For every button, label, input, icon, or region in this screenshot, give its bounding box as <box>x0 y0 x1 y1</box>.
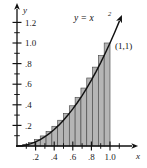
x-axis-tick-label: 1.0 <box>104 152 116 162</box>
riemann-rectangle <box>93 67 99 146</box>
x-axis-tick-label: .8 <box>88 152 95 162</box>
y-axis-tick-label: .6 <box>25 79 32 89</box>
point-label-one-one: (1,1) <box>115 41 132 51</box>
x-axis-tick-label: .6 <box>69 152 76 162</box>
y-axis-tick-labels-group: .2.4.6.81.01.2 <box>25 18 37 131</box>
curve-equation-exponent: 2 <box>108 10 112 17</box>
riemann-rectangle <box>98 55 104 146</box>
riemann-rectangle <box>104 43 110 146</box>
x-axis-tick-labels-group: .2.4.6.81.0 <box>32 152 116 162</box>
riemann-rectangle <box>87 78 93 146</box>
y-axis-tick-label: .8 <box>25 59 32 69</box>
x-axis-tick-label: .4 <box>51 152 58 162</box>
curve-equation-label: y = x 2 <box>73 10 112 23</box>
y-axis-tick-label: 1.2 <box>25 18 36 28</box>
x-axis-tick-label: .2 <box>32 152 39 162</box>
riemann-sum-figure: .2.4.6.81.01.2 .2.4.6.81.0 y x y = x 2 (… <box>0 0 147 168</box>
curve-equation-text: y = x <box>73 13 94 23</box>
y-axis-tick-label: .4 <box>25 100 32 110</box>
x-axis-label: x <box>135 151 140 161</box>
y-axis-tick-label: 1.0 <box>25 38 37 48</box>
y-axis-tick-label: .2 <box>25 121 32 131</box>
y-axis-label: y <box>22 5 27 15</box>
plot-canvas: .2.4.6.81.01.2 .2.4.6.81.0 y x y = x 2 (… <box>0 0 147 168</box>
